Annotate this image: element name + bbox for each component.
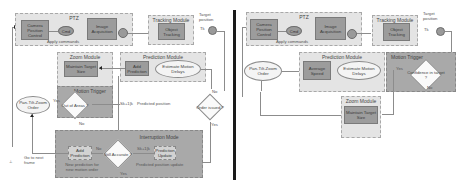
no-label-right: No (427, 85, 432, 90)
cmd-node-right: Cmd (286, 26, 302, 36)
zoom-title: Zoom Module (58, 54, 112, 60)
object-tracking-box: Object Tracking (158, 23, 185, 40)
confidence-decision: Confidence in target ? (406, 58, 446, 92)
predicted-position-update-label: Predicted position update (136, 162, 183, 167)
connector (217, 31, 225, 32)
connector (445, 31, 452, 32)
sum-node-right (347, 29, 357, 39)
pan-tilt-zoom-order-ellipse: Pan-Tilt-Zoom Order (16, 96, 50, 114)
zoom-title-right: Zoom Module (342, 98, 380, 104)
yes-label: Yes (53, 98, 60, 103)
connector (357, 33, 371, 34)
prediction-title: Prediction Module (121, 54, 205, 60)
tk-label: Tk (200, 26, 205, 31)
target-position-label-right: Target position (423, 12, 445, 21)
connector (49, 31, 58, 32)
go-to-next-frame-label: Go to next frame (24, 155, 46, 165)
target-position-label: Target position (199, 13, 221, 22)
interruption-yes-label: Yes (120, 171, 127, 176)
connector (128, 33, 148, 34)
object-tracking-box-right: Object Tracking (383, 23, 410, 41)
divider (233, 10, 236, 180)
order-yes-label: Yes (211, 122, 218, 127)
connector (32, 114, 33, 154)
camera-position-control-box: Camera Position Control (21, 20, 49, 40)
arrow-icon (30, 114, 34, 117)
out-of-areas-decision: Out of Areas ? (60, 90, 90, 120)
estimate-motion-delays-ellipse-right: Estimate Motion Delays (337, 61, 381, 80)
pan-tilt-zoom-order-ellipse-right: Pan-Tilt-Zoom Order (244, 61, 282, 81)
order-issued-decision: Order issued ? (195, 92, 225, 122)
tk-label-right: Tk (424, 27, 429, 32)
ground-icon: ⊥ (9, 159, 12, 164)
connector (92, 104, 120, 105)
interruption-no-label: No (96, 146, 101, 151)
average-speed-box: Average Speed (303, 61, 331, 80)
target-node-right (436, 27, 445, 36)
add-prediction-box-2: Add Prediction (68, 146, 92, 160)
target-node (208, 26, 217, 35)
estimate-motion-delays-ellipse: Estimate Motion Delays (155, 60, 201, 78)
prediction-update-box: Prediction Update (154, 146, 176, 160)
connector (278, 31, 286, 32)
no-label: No (79, 121, 84, 126)
predicted-symbol: Sk+1|k (120, 101, 133, 106)
connector (201, 69, 211, 70)
connector (118, 76, 119, 138)
new-prediction-label: New prediction for new motion order (62, 162, 102, 172)
cmd-node: Cmd (58, 26, 74, 36)
connector (282, 71, 299, 72)
connector (99, 68, 125, 69)
connector (393, 70, 394, 115)
apply-commands-label: Apply commands (47, 39, 79, 44)
connector (12, 27, 13, 147)
maintain-target-size-box: Maintain Target Size (64, 61, 98, 77)
sum-node (118, 28, 128, 38)
connector (32, 153, 68, 154)
connector (261, 81, 262, 91)
connector (133, 153, 154, 154)
connector (210, 122, 211, 162)
connector (224, 31, 225, 91)
still-accurate-decision: Still Accurate ? (103, 139, 133, 169)
connector (242, 27, 243, 97)
interruption-symbol: Sk+1|k (137, 146, 150, 151)
add-prediction-box: Add Prediction (125, 61, 149, 76)
arrow-icon (99, 66, 102, 70)
camera-position-control-box-right: Camera Position Control (250, 19, 278, 40)
prediction-title-right: Prediction Module (300, 54, 384, 60)
connector (211, 69, 212, 89)
predicted-position-label: Predicted position (137, 101, 170, 106)
connector (260, 92, 261, 116)
yes-label-right: Yes (396, 66, 403, 71)
connector (92, 153, 103, 154)
apply-commands-label-right: Apply commands (276, 39, 308, 44)
maintain-target-size-box-right: Maintain Target Size (344, 106, 378, 124)
image-acquisition-box-right: Image Acquisition (315, 17, 346, 40)
image-acquisition-box: Image Acquisition (87, 18, 117, 40)
